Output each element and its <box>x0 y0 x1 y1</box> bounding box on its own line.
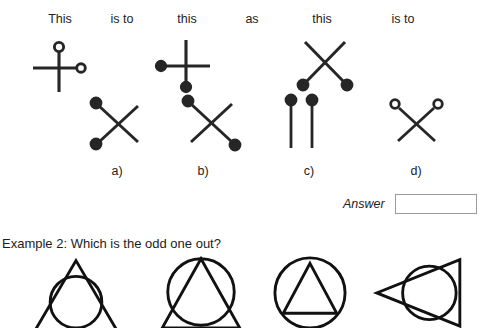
header-word-is-to-1: is to <box>111 11 134 27</box>
header-word-is-to-2: is to <box>392 11 415 27</box>
option-b-figure[interactable] <box>180 96 246 150</box>
filled-circle-bottom-left <box>298 80 308 90</box>
option-label-c: c) <box>304 163 314 179</box>
option-label-d: d) <box>410 163 421 179</box>
figure-1-triangle-over-circle[interactable] <box>24 256 128 328</box>
open-circle-top-left <box>391 100 400 109</box>
option-label-b: b) <box>197 163 208 179</box>
option-a-figure[interactable] <box>86 94 150 150</box>
option-label-a: a) <box>111 163 122 179</box>
header-word-this-2: this <box>177 11 196 27</box>
stimulus-b-cross-filled-circles <box>152 36 220 96</box>
filled-circle-bottom-right <box>230 140 240 150</box>
answer-row: Answer <box>343 194 477 214</box>
triangle-outline <box>283 263 337 313</box>
option-labels-row: a) b) c) d) <box>0 163 487 179</box>
header-word-as: as <box>245 11 258 27</box>
triangle-outline <box>35 261 116 328</box>
figure-2-circle-over-triangle[interactable] <box>148 256 254 328</box>
circle-outline <box>168 259 234 325</box>
analogy-header-row: This is to this as this is to <box>0 11 487 27</box>
open-circle-top-right <box>434 100 443 109</box>
figure-3-triangle-inside-circle[interactable] <box>264 256 356 328</box>
header-word-this-3: this <box>312 11 331 27</box>
option-d-figure[interactable] <box>387 95 447 145</box>
stimulus-c-x-filled-circles-bottom <box>292 38 358 92</box>
filled-circle-bottom-right <box>342 80 352 90</box>
circle-outline <box>275 258 345 328</box>
open-circle-top <box>54 42 63 51</box>
header-word-this-1: This <box>48 11 72 27</box>
answer-input[interactable] <box>395 194 477 214</box>
filled-circle-bottom <box>181 82 190 91</box>
triangle-outline <box>162 259 240 328</box>
filled-circle-left <box>156 61 165 70</box>
stimulus-a-cross-open-circles <box>26 38 90 94</box>
circle-outline <box>50 276 102 328</box>
example2-prompt: Example 2: Which is the odd one out? <box>2 235 221 252</box>
example2-figure-row <box>0 256 487 328</box>
answer-label: Answer <box>343 196 385 212</box>
filled-circle-top-left <box>286 95 296 105</box>
filled-circle-top-right <box>307 95 317 105</box>
figure-4-left-pointing-triangle-with-circle[interactable] <box>368 256 476 328</box>
open-circle-right <box>77 64 86 73</box>
circle-outline <box>403 266 457 320</box>
filled-circle-top-left <box>183 96 193 106</box>
filled-circle-top-left <box>91 98 101 108</box>
filled-circle-bottom-left <box>91 139 101 149</box>
option-c-figure[interactable] <box>281 94 325 150</box>
